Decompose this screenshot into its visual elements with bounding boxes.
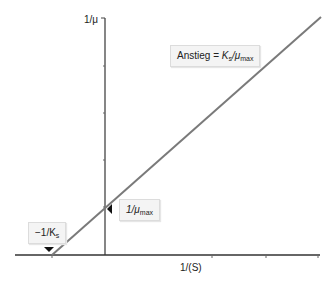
slope-mu-sub: max (240, 55, 253, 62)
intercept-y-sub: max (140, 209, 153, 216)
x-axis-label-text: 1/(S) (180, 262, 202, 273)
slope-mu: /μ (232, 50, 240, 61)
intercept-x-sub: s (56, 232, 60, 239)
x-intercept-marker-icon (44, 247, 54, 252)
y-intercept-annotation: 1/μmax (119, 199, 160, 221)
y-axis-label: 1/μ (84, 14, 98, 25)
x-axis-label: 1/(S) (180, 262, 202, 273)
y-axis-label-text: 1/μ (84, 14, 98, 25)
intercept-x-text: −1/K (35, 227, 56, 238)
slope-annotation: Anstieg = Ks/μmax (170, 45, 260, 67)
slope-prefix: Anstieg = (177, 50, 222, 61)
x-intercept-annotation: −1/Ks (28, 222, 66, 244)
intercept-y-text: 1/μ (126, 204, 140, 215)
